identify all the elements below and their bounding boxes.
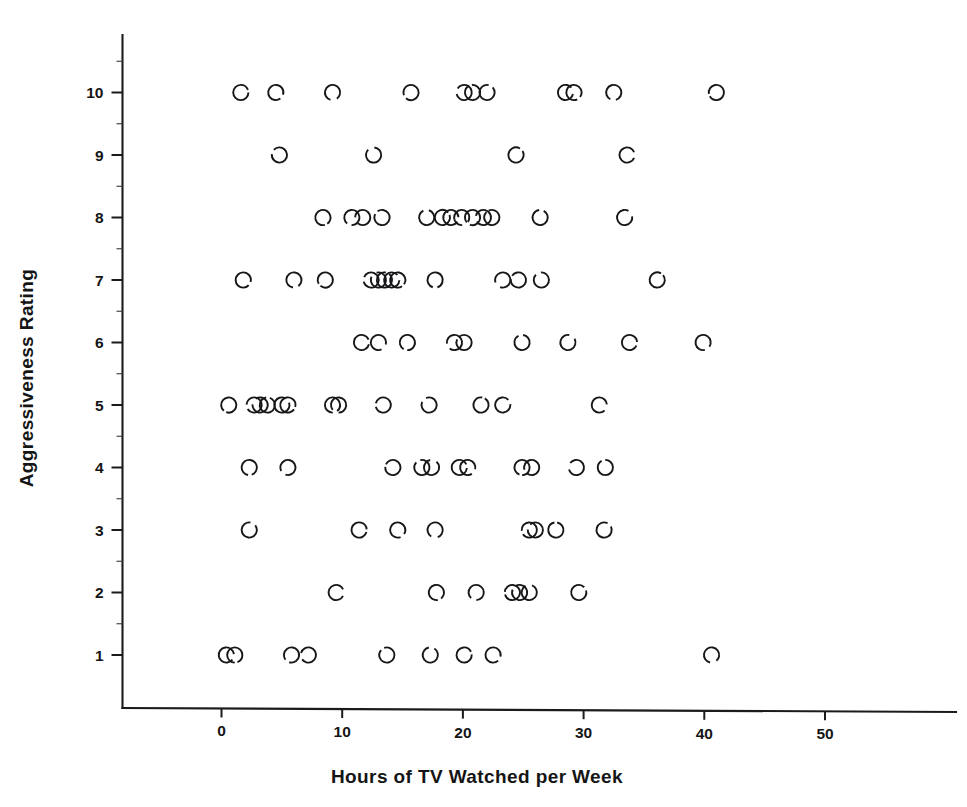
data-point bbox=[269, 144, 290, 165]
data-point bbox=[299, 646, 318, 665]
data-point bbox=[350, 521, 369, 540]
plot-canvas: 12345678910 01020304050 Hours of TV Watc… bbox=[0, 0, 967, 807]
data-point bbox=[471, 395, 492, 416]
data-point bbox=[368, 332, 388, 352]
y-tick-label-4: 4 bbox=[95, 459, 104, 476]
data-point bbox=[703, 646, 721, 664]
data-point bbox=[566, 457, 587, 478]
data-point bbox=[239, 519, 260, 540]
data-point bbox=[315, 270, 336, 291]
data-point bbox=[427, 584, 445, 602]
data-point bbox=[617, 145, 637, 165]
data-point bbox=[233, 85, 248, 100]
data-point bbox=[558, 332, 579, 353]
x-tick-label-50: 50 bbox=[816, 725, 833, 742]
y-tick-label-8: 8 bbox=[95, 209, 104, 226]
data-point bbox=[598, 460, 613, 475]
y-tick-label-2: 2 bbox=[95, 584, 104, 601]
x-tick-label-20: 20 bbox=[454, 724, 471, 741]
data-point bbox=[465, 582, 486, 603]
data-point bbox=[589, 394, 610, 415]
x-axis-line bbox=[123, 708, 957, 712]
data-point bbox=[419, 395, 439, 415]
x-axis-title: Hours of TV Watched per Week bbox=[331, 766, 623, 787]
data-point bbox=[426, 270, 445, 289]
data-point bbox=[326, 582, 346, 602]
x-tick-label-30: 30 bbox=[575, 724, 592, 741]
data-point bbox=[323, 83, 342, 102]
data-point bbox=[594, 520, 614, 540]
data-point bbox=[265, 82, 286, 103]
data-point bbox=[482, 644, 503, 665]
axes bbox=[123, 35, 957, 712]
data-point bbox=[401, 83, 421, 103]
y-tick-label-9: 9 bbox=[95, 147, 104, 164]
data-point bbox=[218, 394, 239, 415]
data-point bbox=[227, 647, 242, 662]
x-tick-label-0: 0 bbox=[217, 722, 226, 739]
data-point bbox=[476, 82, 497, 103]
data-point bbox=[708, 84, 726, 102]
data-point bbox=[619, 332, 639, 352]
data-point bbox=[530, 207, 551, 228]
data-point bbox=[285, 272, 302, 289]
data-point bbox=[533, 272, 549, 288]
data-point bbox=[314, 208, 333, 227]
data-point bbox=[383, 457, 403, 477]
data-point bbox=[281, 644, 302, 665]
data-point bbox=[417, 208, 436, 227]
x-tick-label-40: 40 bbox=[696, 725, 713, 742]
data-point bbox=[374, 396, 392, 414]
data-point bbox=[352, 333, 370, 351]
data-points bbox=[216, 82, 725, 666]
data-point bbox=[513, 334, 530, 351]
data-point bbox=[397, 332, 418, 353]
y-tick-label-10: 10 bbox=[86, 84, 103, 101]
y-axis-title: Aggressiveness Rating bbox=[16, 269, 37, 488]
data-point bbox=[547, 521, 565, 539]
data-point bbox=[377, 645, 397, 665]
data-point bbox=[694, 333, 712, 351]
data-point bbox=[456, 647, 472, 663]
data-point bbox=[241, 459, 258, 476]
data-point bbox=[647, 269, 668, 290]
data-point bbox=[278, 457, 299, 478]
data-point bbox=[493, 270, 512, 289]
data-point bbox=[425, 520, 446, 541]
x-axis-ticks: 01020304050 bbox=[217, 708, 833, 742]
y-tick-label-3: 3 bbox=[95, 522, 104, 539]
data-point bbox=[506, 145, 527, 166]
data-point bbox=[494, 397, 511, 414]
data-point bbox=[371, 207, 392, 228]
data-point bbox=[508, 269, 529, 290]
y-tick-label-6: 6 bbox=[95, 334, 104, 351]
y-tick-label-1: 1 bbox=[95, 647, 104, 664]
data-point bbox=[569, 583, 588, 602]
y-tick-label-5: 5 bbox=[95, 397, 104, 414]
data-point bbox=[604, 82, 624, 102]
data-point bbox=[388, 520, 408, 540]
x-tick-label-10: 10 bbox=[334, 723, 351, 740]
data-point bbox=[616, 209, 633, 226]
scatter-plot-figure: 12345678910 01020304050 Hours of TV Watc… bbox=[0, 0, 967, 807]
data-point bbox=[232, 269, 253, 290]
y-tick-label-7: 7 bbox=[95, 272, 104, 289]
y-axis-ticks: 12345678910 bbox=[86, 61, 122, 663]
data-point bbox=[365, 147, 382, 164]
data-point bbox=[420, 645, 441, 666]
